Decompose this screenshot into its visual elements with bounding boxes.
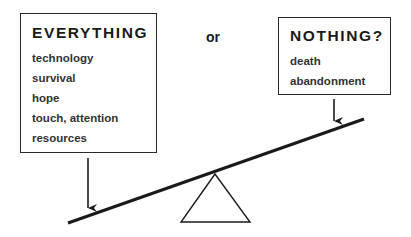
nothing-title: NOTHING? — [290, 27, 390, 45]
everything-item: touch, attention — [32, 108, 156, 128]
or-label: or — [206, 29, 220, 45]
nothing-item: death — [290, 51, 390, 71]
everything-item: survival — [32, 68, 156, 88]
everything-item: hope — [32, 88, 156, 108]
nothing-box: NOTHING? death abandonment — [278, 17, 391, 95]
everything-item: resources — [32, 128, 156, 148]
everything-item: technology — [32, 48, 156, 68]
nothing-item: abandonment — [290, 71, 390, 91]
everything-box: EVERYTHING technology survival hope touc… — [20, 13, 157, 153]
everything-title: EVERYTHING — [32, 24, 156, 42]
